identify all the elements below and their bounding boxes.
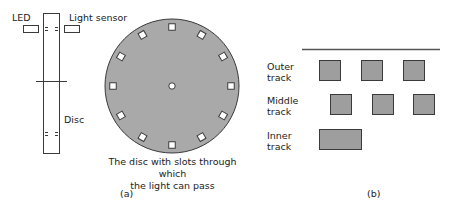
disc-caption: The disc with slots through which the li…	[100, 156, 245, 192]
disc-caption-line1: The disc with slots through which	[100, 156, 245, 180]
track-label-line1: Middle	[267, 95, 298, 106]
bottom-slot-marks	[45, 133, 58, 136]
light-sensor-label: Light sensor	[69, 12, 127, 23]
track-slot	[404, 61, 425, 81]
track-slot	[362, 61, 383, 81]
disc-front-view	[105, 19, 239, 153]
disc-label: Disc	[64, 114, 84, 125]
side-view	[24, 14, 80, 154]
disc-slot	[110, 83, 117, 90]
track-slot	[320, 130, 362, 150]
track-label-line2: track	[267, 72, 294, 83]
track-slot	[414, 95, 435, 115]
track-label-line1: Inner	[267, 130, 292, 141]
led-box	[24, 26, 39, 33]
top-slot-marks	[45, 28, 58, 31]
track-slot	[373, 95, 394, 115]
track-label-inner: Inner track	[267, 130, 292, 152]
center-hole	[169, 83, 175, 89]
panel-a-label: (a)	[120, 188, 133, 199]
disc-slot	[169, 24, 176, 31]
tracks-diagram	[302, 50, 440, 150]
track-label-outer: Outer track	[267, 61, 294, 83]
track-label-line2: track	[267, 106, 298, 117]
track-slot	[320, 61, 341, 81]
led-label: LED	[12, 12, 31, 23]
panel-b-label: (b)	[367, 188, 380, 199]
track-label-middle: Middle track	[267, 95, 298, 117]
disc-slot	[169, 142, 176, 149]
track-slot	[331, 95, 352, 115]
disc-slot	[228, 83, 235, 90]
light-sensor-box	[65, 26, 80, 33]
track-label-line1: Outer	[267, 61, 294, 72]
track-label-line2: track	[267, 141, 292, 152]
